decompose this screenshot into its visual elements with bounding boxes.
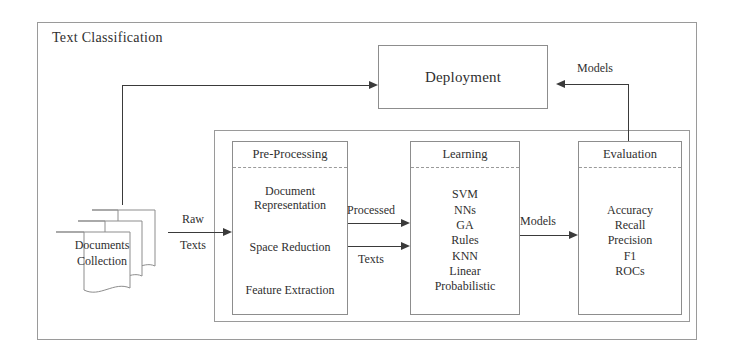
edge-label-texts-raw: Texts: [180, 238, 206, 253]
diagram-title: Text Classification: [52, 30, 163, 46]
arrowhead-into-pre-processing: [223, 228, 232, 236]
edge-label-models-deployment: Models: [577, 61, 613, 76]
connector-pre-to-learning-top: [348, 223, 402, 224]
list-item: ROCs: [615, 264, 644, 279]
list-item: Rules: [451, 233, 478, 248]
stage-pre-processing-items: Document Representation Space Reduction …: [233, 168, 347, 314]
arrowhead-into-evaluation: [569, 231, 578, 239]
list-item: Linear: [449, 264, 480, 279]
edge-label-texts-processed: Texts: [358, 252, 384, 267]
edge-label-models-evaluation: Models: [520, 214, 556, 229]
list-item: KNN: [452, 249, 478, 264]
edge-label-raw: Raw: [182, 212, 204, 227]
list-item: Accuracy: [607, 203, 653, 218]
stage-learning[interactable]: Learning SVM NNs GA Rules KNN Linear Pro…: [410, 141, 520, 315]
connector-evaluation-to-deployment-vertical: [628, 84, 629, 141]
stage-evaluation[interactable]: Evaluation Accuracy Recall Precision F1 …: [578, 141, 682, 315]
list-item: NNs: [454, 203, 476, 218]
stage-evaluation-title: Evaluation: [579, 142, 681, 168]
documents-collection-label: Documents Collection: [50, 238, 154, 269]
list-item: Space Reduction: [250, 240, 331, 255]
arrowhead-into-learning-bottom: [401, 242, 410, 250]
edge-label-processed: Processed: [347, 203, 395, 218]
arrowhead-into-deployment-from-evaluation: [556, 80, 565, 88]
list-item: Recall: [615, 218, 646, 233]
list-item: Document Representation: [254, 184, 326, 212]
list-item: Feature Extraction: [246, 283, 335, 298]
stage-pre-processing[interactable]: Pre-Processing Document Representation S…: [232, 141, 348, 315]
diagram-canvas: Text Classification Documents Collection…: [0, 0, 734, 357]
list-item: SVM: [452, 187, 478, 202]
connector-docs-to-pre-processing: [168, 232, 224, 233]
connector-learning-to-evaluation: [520, 235, 570, 236]
list-item: Probabilistic: [435, 279, 496, 294]
documents-collection-stack: Documents Collection: [50, 204, 168, 300]
stage-learning-title: Learning: [411, 142, 519, 168]
stage-pre-processing-title: Pre-Processing: [233, 142, 347, 168]
stage-evaluation-items: Accuracy Recall Precision F1 ROCs: [579, 168, 681, 314]
connector-docs-to-deployment-vertical: [122, 85, 123, 205]
connector-pre-to-learning-bottom: [348, 246, 402, 247]
connector-docs-to-deployment-horizontal: [122, 85, 369, 86]
list-item: Precision: [608, 233, 653, 248]
arrowhead-into-deployment: [369, 81, 378, 89]
stage-learning-items: SVM NNs GA Rules KNN Linear Probabilisti…: [411, 168, 519, 314]
list-item: GA: [456, 218, 473, 233]
arrowhead-into-learning-top: [401, 219, 410, 227]
list-item: F1: [624, 249, 637, 264]
connector-evaluation-to-deployment-horizontal: [565, 84, 629, 85]
deployment-box[interactable]: Deployment: [378, 45, 548, 109]
